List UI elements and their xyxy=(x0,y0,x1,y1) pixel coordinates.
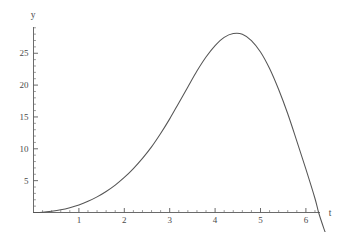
y-tick-group xyxy=(34,28,39,213)
x-tick-label: 1 xyxy=(77,215,82,225)
y-axis-label: y xyxy=(31,10,36,20)
x-tick-group xyxy=(34,208,315,213)
plot-figure: 123456 510152025 y t xyxy=(0,0,347,232)
x-tick-label: 6 xyxy=(304,215,309,225)
y-tick-label: 5 xyxy=(24,176,29,186)
x-tick-label: 3 xyxy=(167,215,172,225)
x-tick-label: 5 xyxy=(258,215,263,225)
x-tick-label-group: 123456 xyxy=(77,215,309,225)
y-tick-label: 25 xyxy=(20,48,30,58)
x-tick-label: 2 xyxy=(122,215,127,225)
y-tick-label-group: 510152025 xyxy=(20,48,30,185)
y-tick-label: 15 xyxy=(20,112,30,122)
y-tick-label: 20 xyxy=(20,80,30,90)
plot-canvas: 123456 510152025 y t xyxy=(0,0,347,232)
x-axis-label: t xyxy=(329,208,332,218)
y-tick-label: 10 xyxy=(20,144,30,154)
x-tick-label: 4 xyxy=(213,215,218,225)
data-curve xyxy=(34,33,331,232)
